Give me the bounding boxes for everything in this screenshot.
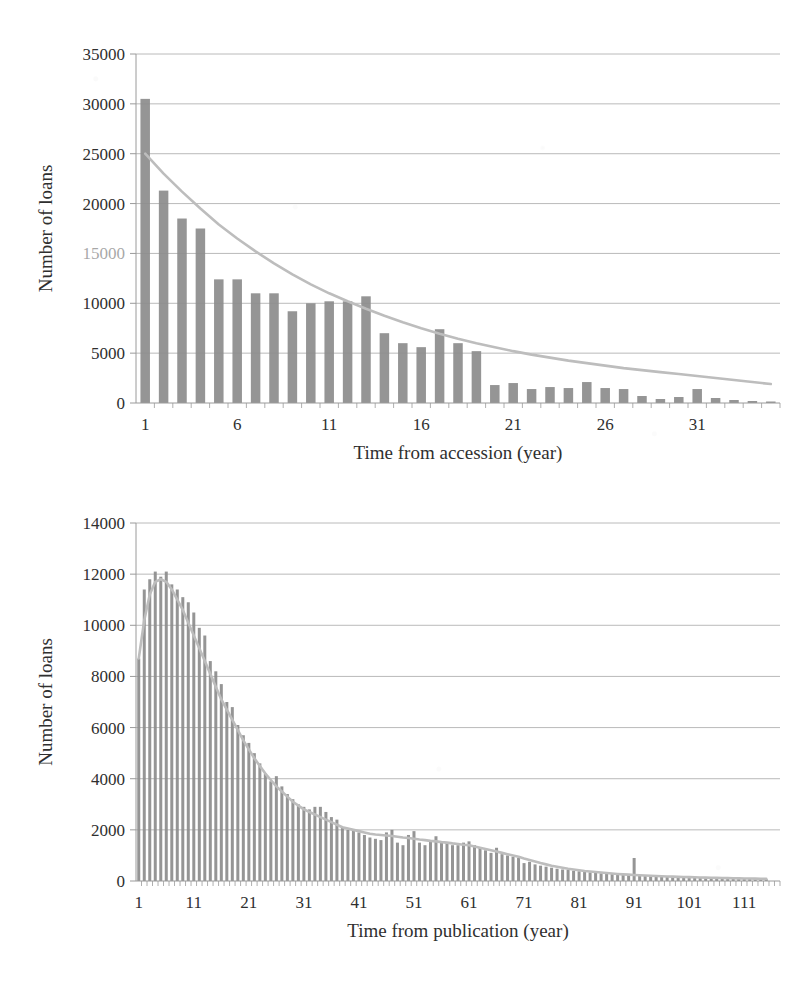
bar — [203, 636, 206, 881]
bar — [214, 279, 224, 403]
bar — [324, 301, 334, 403]
y-tick-label: 8000 — [91, 667, 125, 686]
bar — [379, 840, 382, 881]
bar — [611, 874, 614, 881]
y-tick-label: 6000 — [91, 719, 125, 738]
bar — [269, 781, 272, 881]
y-axis-title: Number of loans — [35, 638, 56, 766]
bar — [484, 850, 487, 881]
bar — [440, 843, 443, 881]
bar — [435, 329, 445, 403]
bar — [140, 99, 150, 403]
bar — [352, 830, 355, 881]
bar — [330, 817, 333, 881]
bar — [306, 303, 316, 403]
x-tick-label: 11 — [186, 893, 202, 912]
bar — [512, 857, 515, 881]
bar — [346, 830, 349, 881]
bar-series — [137, 572, 767, 881]
bar — [390, 830, 393, 881]
bar — [253, 753, 256, 881]
bar — [473, 845, 476, 881]
y-tick-label: 15000 — [83, 244, 126, 263]
x-tick-label: 51 — [405, 893, 422, 912]
bar — [361, 296, 371, 403]
y-tick-label: 4000 — [91, 770, 125, 789]
bar — [711, 398, 721, 403]
bar — [656, 399, 666, 403]
bar — [616, 874, 619, 881]
bar — [192, 613, 195, 882]
x-minor-ticks — [154, 403, 780, 408]
bar — [231, 707, 234, 881]
y-tick-label: 10000 — [83, 294, 126, 313]
bar — [453, 343, 463, 403]
y-axis-title: Number of loans — [35, 165, 56, 293]
x-tick-label: 21 — [505, 415, 522, 434]
bar — [264, 774, 267, 881]
bar — [583, 872, 586, 881]
bar — [619, 389, 629, 403]
bar — [633, 858, 636, 881]
bar — [187, 602, 190, 881]
bar — [280, 786, 283, 881]
bar — [523, 863, 526, 881]
bar — [291, 799, 294, 881]
y-tick-label: 25000 — [83, 145, 126, 164]
bar — [423, 845, 426, 881]
x-tick-label: 111 — [732, 893, 756, 912]
bar — [407, 835, 410, 881]
x-tick-label: 101 — [676, 893, 702, 912]
bar — [343, 301, 353, 403]
bar — [220, 684, 223, 881]
bar — [594, 873, 597, 881]
bar — [181, 597, 184, 881]
bar — [251, 293, 261, 403]
bar — [165, 572, 168, 881]
bar — [434, 836, 437, 881]
bar — [324, 812, 327, 881]
bar — [247, 743, 250, 881]
bar — [605, 874, 608, 881]
bar — [335, 820, 338, 881]
bar — [600, 873, 603, 881]
bar — [545, 867, 548, 881]
bar — [385, 832, 388, 881]
bar — [462, 843, 465, 881]
x-axis-title: Time from accession (year) — [354, 442, 563, 464]
x-tick-label: 41 — [350, 893, 367, 912]
bar — [468, 841, 471, 881]
bar — [418, 843, 421, 881]
bar — [374, 839, 377, 881]
bar — [582, 382, 592, 403]
x-tick-label: 16 — [413, 415, 430, 434]
bar — [545, 387, 555, 403]
bar — [506, 855, 509, 881]
bar — [214, 671, 217, 881]
y-tick-label: 0 — [117, 394, 126, 413]
bar — [286, 794, 289, 881]
x-tick-label: 31 — [689, 415, 706, 434]
bar — [275, 776, 278, 881]
bar-series — [140, 99, 775, 403]
chart-accession-canvas: 0500010000150002000025000300003500016111… — [0, 0, 798, 490]
bar — [148, 579, 151, 881]
bar — [302, 807, 305, 881]
bar — [159, 191, 169, 403]
y-tick-label: 0 — [117, 872, 126, 891]
x-tick-label: 61 — [461, 893, 478, 912]
bar — [258, 763, 261, 881]
bar — [225, 702, 228, 881]
bar — [137, 659, 140, 881]
x-tick-label: 1 — [141, 415, 150, 434]
bar — [517, 858, 520, 881]
bar — [479, 848, 482, 881]
bar — [357, 832, 360, 881]
bar — [429, 840, 432, 881]
y-tick-label: 20000 — [83, 195, 126, 214]
x-tick-label: 1 — [135, 893, 144, 912]
bar — [472, 351, 482, 403]
bar — [396, 843, 399, 881]
bar — [297, 804, 300, 881]
bar — [527, 389, 537, 403]
